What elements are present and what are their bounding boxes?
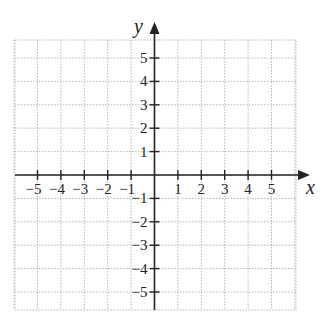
- y-tick-label: −1: [132, 190, 148, 206]
- y-tick-label: 3: [140, 97, 148, 113]
- x-tick-label: −3: [72, 181, 88, 197]
- x-tick-label: 1: [174, 181, 182, 197]
- x-tick-label: 4: [244, 181, 252, 197]
- y-axis-arrow-icon: [150, 22, 160, 34]
- x-tick-label: 3: [221, 181, 229, 197]
- y-tick-label: −5: [132, 284, 148, 300]
- y-tick-label: −2: [132, 214, 148, 230]
- x-tick-label: 2: [198, 181, 206, 197]
- y-tick-label: 5: [140, 50, 148, 66]
- x-tick-label: 5: [268, 181, 276, 197]
- y-axis-label: y: [132, 15, 143, 38]
- x-tick-label: −2: [96, 181, 112, 197]
- y-tick-label: 2: [140, 120, 148, 136]
- axes: [15, 22, 310, 310]
- x-tick-label: −4: [49, 181, 65, 197]
- y-tick-label: 1: [140, 144, 148, 160]
- x-tick-label: −5: [26, 181, 42, 197]
- y-tick-label: −4: [132, 261, 148, 277]
- y-tick-label: −3: [132, 237, 148, 253]
- x-axis-label: x: [305, 176, 315, 198]
- y-tick-label: 4: [140, 73, 148, 89]
- coordinate-plane: −5−4−3−2−11234554321−1−2−3−4−5 x y: [0, 0, 326, 321]
